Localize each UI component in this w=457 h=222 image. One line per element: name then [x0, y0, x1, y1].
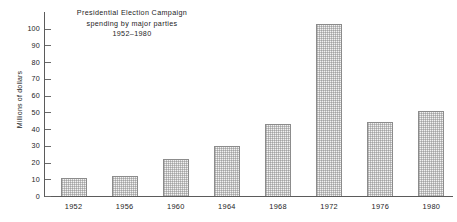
y-tick-80: 80 — [44, 62, 51, 63]
chart-figure: Presidential Election Campaign spending … — [0, 0, 457, 222]
y-axis-label: Millions of dollars — [16, 40, 23, 160]
bar-1968 — [265, 124, 291, 196]
y-tick-label: 90 — [32, 41, 40, 50]
y-tick-mark — [45, 29, 51, 30]
y-tick-mark — [45, 179, 51, 180]
y-tick-mark — [45, 62, 51, 63]
y-tick-mark — [45, 129, 51, 130]
y-tick-mark — [45, 163, 51, 164]
y-tick-label: 50 — [32, 108, 40, 117]
y-tick-label: 100 — [27, 24, 40, 33]
y-tick-mark — [45, 79, 51, 80]
y-tick-90: 90 — [44, 45, 51, 46]
y-tick-label: 70 — [32, 74, 40, 83]
y-tick-60: 60 — [44, 96, 51, 97]
y-tick-mark — [45, 112, 51, 113]
y-tick-mark — [45, 146, 51, 147]
y-tick-mark — [45, 45, 51, 46]
y-tick-mark — [45, 196, 51, 197]
y-tick-label: 60 — [32, 91, 40, 100]
x-axis-line — [44, 196, 453, 197]
y-tick-10: 10 — [44, 179, 51, 180]
y-tick-label: 10 — [32, 175, 40, 184]
x-tick-label-1968: 1968 — [269, 202, 287, 211]
y-tick-label: 40 — [32, 125, 40, 134]
y-tick-100: 100 — [44, 29, 51, 30]
bar-1980 — [418, 111, 444, 196]
y-tick-20: 20 — [44, 163, 51, 164]
bar-1976 — [367, 122, 393, 196]
y-tick-0: 0 — [44, 196, 51, 197]
bar-1964 — [214, 146, 240, 196]
y-tick-70: 70 — [44, 79, 51, 80]
x-tick-label-1964: 1964 — [218, 202, 236, 211]
bar-1960 — [163, 159, 189, 196]
y-tick-label: 0 — [36, 192, 40, 201]
bar-1956 — [112, 176, 138, 196]
x-tick-label-1956: 1956 — [116, 202, 134, 211]
plot-area: 0102030405060708090100 19521956196019641… — [44, 12, 453, 196]
bar-1972 — [316, 24, 342, 196]
x-tick-label-1980: 1980 — [423, 202, 441, 211]
x-tick-label-1972: 1972 — [320, 202, 338, 211]
y-tick-50: 50 — [44, 112, 51, 113]
y-tick-label: 20 — [32, 158, 40, 167]
y-tick-label: 80 — [32, 58, 40, 67]
y-axis-line — [44, 12, 45, 196]
y-tick-label: 30 — [32, 141, 40, 150]
x-tick-label-1960: 1960 — [167, 202, 185, 211]
y-tick-30: 30 — [44, 146, 51, 147]
x-tick-label-1976: 1976 — [371, 202, 389, 211]
y-tick-mark — [45, 96, 51, 97]
y-tick-40: 40 — [44, 129, 51, 130]
bar-1952 — [61, 178, 87, 196]
x-tick-label-1952: 1952 — [65, 202, 83, 211]
